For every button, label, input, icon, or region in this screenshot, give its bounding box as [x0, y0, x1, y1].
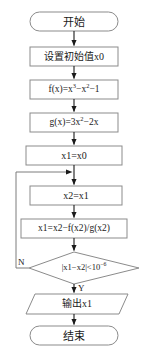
node-gx-label: g(x)=3x2−2x	[30, 118, 118, 128]
node-x2x1-label: x2=x1	[30, 191, 122, 201]
node-condition-label: |x1−x2|<10−6	[29, 263, 139, 272]
node-newton-label: x1=x2−f(x2)/g(x2)	[21, 224, 127, 234]
node-output-label: 输出x1	[26, 299, 128, 309]
node-start-label: 开始	[30, 17, 118, 28]
loop-return-arrowhead	[66, 169, 73, 174]
node-x1x0-label: x1=x0	[26, 151, 122, 161]
branch-label-no: N	[18, 258, 25, 267]
branch-label-yes: Y	[78, 284, 85, 293]
node-init-label: 设置初始值x0	[30, 52, 118, 62]
node-fx-label: f(x)=x3−x2−1	[30, 85, 118, 95]
node-end-label: 结束	[30, 331, 118, 342]
flowchart-canvas: 开始 设置初始值x0 f(x)=x3−x2−1 g(x)=3x2−2x x1=x…	[0, 0, 147, 353]
